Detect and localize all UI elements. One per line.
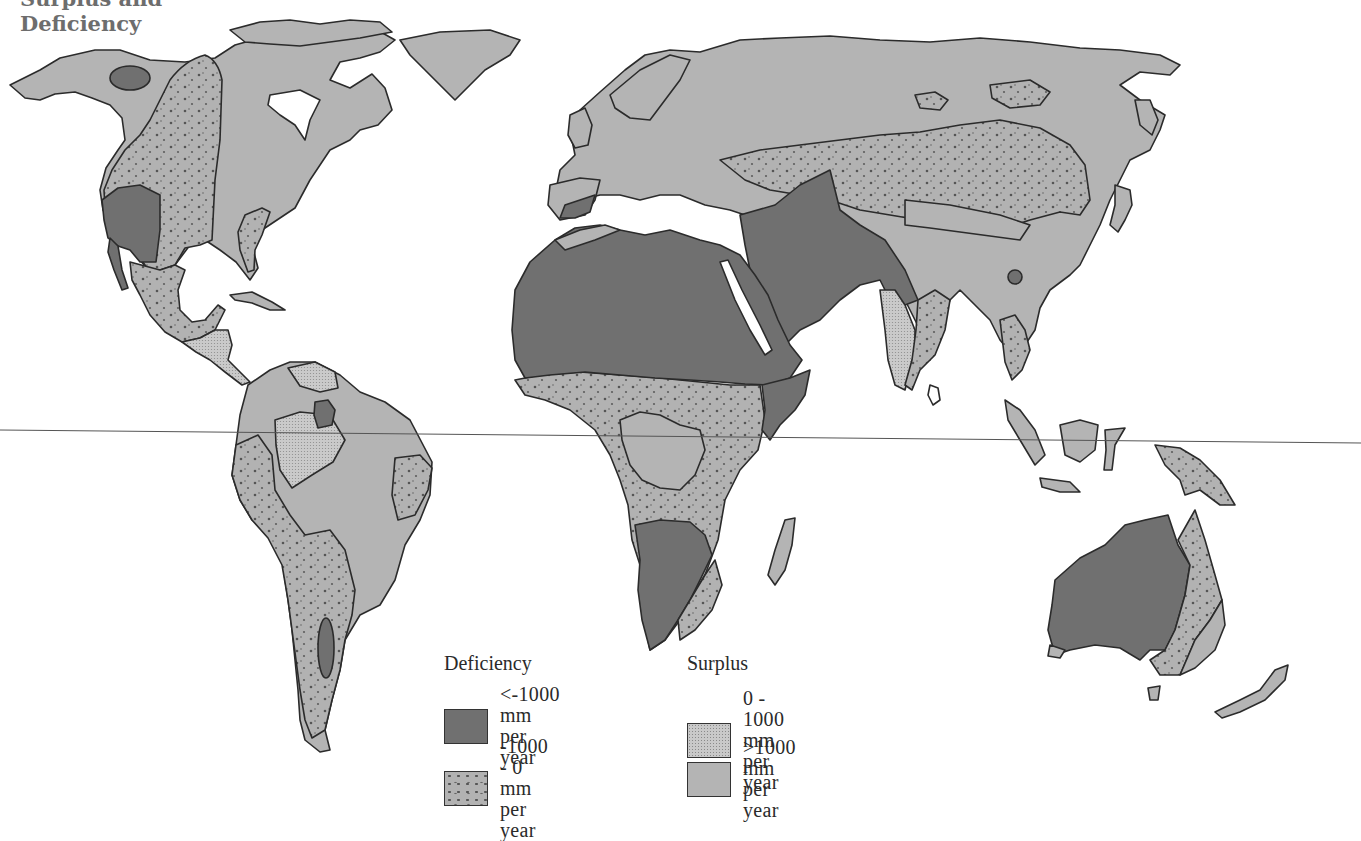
- sri-lanka: [928, 385, 940, 405]
- legend-deficiency-heading: Deficiency: [444, 650, 532, 676]
- sulawesi: [1104, 428, 1125, 470]
- cuba: [230, 292, 285, 310]
- map-legend: Deficiency <-1000 mm per year -1000 - 0 …: [444, 650, 984, 790]
- legend-surplus-heading: Surplus: [687, 650, 748, 676]
- legend-item-deficit-low: -1000 - 0 mm per year: [444, 736, 548, 841]
- greenland: [400, 30, 520, 100]
- patagonia-deficit-high: [318, 618, 334, 678]
- sumatra: [1005, 400, 1045, 465]
- java: [1040, 478, 1080, 492]
- legend-label-line2: per year: [500, 799, 548, 841]
- madagascar: [768, 518, 795, 585]
- mexico-deficit-low: [130, 262, 225, 342]
- south-america: [232, 362, 432, 752]
- legend-surplus: Surplus 0 - 1000 mm per year >1000 mm pe…: [687, 650, 748, 676]
- new-zealand: [1215, 665, 1288, 718]
- swatch-surplus-high: [687, 762, 731, 797]
- sichuan-deficit-high: [1008, 270, 1022, 284]
- tasmania: [1148, 686, 1160, 700]
- legend-label: >1000 mm per year: [743, 737, 796, 821]
- legend-label-line1: -1000 - 0 mm: [500, 736, 548, 799]
- australia-deficit-high: [1048, 515, 1190, 660]
- legend-item-surplus-high: >1000 mm per year: [687, 737, 796, 821]
- yukon-deficit-high: [110, 66, 150, 90]
- borneo: [1060, 420, 1098, 462]
- guyana-deficit-high: [314, 400, 335, 428]
- legend-label-line1: <-1000 mm: [500, 684, 560, 726]
- brazil-northeast-deficit-low: [392, 455, 432, 520]
- new-guinea: [1155, 445, 1235, 505]
- north-america: [10, 20, 520, 385]
- legend-label: -1000 - 0 mm per year: [500, 736, 548, 841]
- legend-deficiency: Deficiency <-1000 mm per year -1000 - 0 …: [444, 650, 532, 676]
- oceania: [1048, 510, 1288, 718]
- swatch-deficit-low: [444, 771, 488, 806]
